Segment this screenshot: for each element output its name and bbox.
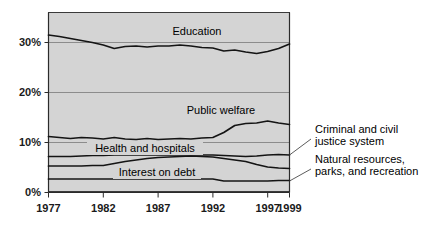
y-axis-label-20: 20%: [19, 86, 41, 98]
label-education-group: Education: [167, 24, 227, 38]
leader-line-natural-resources: [290, 169, 312, 181]
x-axis-label-1982: 1982: [91, 202, 115, 214]
x-axis-label-1977: 1977: [36, 202, 60, 214]
callout-criminal-justice-line-1: Criminal and civil: [315, 123, 398, 135]
series-label-education: Education: [173, 25, 222, 37]
plot-area-background: [49, 13, 290, 192]
series-label-public-welfare: Public welfare: [187, 104, 255, 116]
label-health-hospitals-group: Health and hospitals: [87, 141, 203, 155]
callout-natural-resources: Natural resources, parks, and recreation: [315, 153, 418, 177]
callout-natural-resources-line-1: Natural resources,: [315, 153, 405, 165]
y-axis-label-0: 0%: [25, 186, 41, 198]
y-axis-label-10: 10%: [19, 136, 41, 148]
label-interest-debt-group: Interest on debt: [113, 165, 201, 179]
x-axis-label-1987: 1987: [146, 202, 170, 214]
x-tick-marks: [49, 193, 290, 198]
chart-figure: 30% 20% 10% 0% 1977 1982 1987 1992 1997 …: [0, 0, 436, 226]
series-label-health-and-hospitals: Health and hospitals: [95, 142, 195, 154]
callout-leader-lines: [290, 139, 312, 181]
x-axis-label-1999: 1999: [277, 202, 301, 214]
series-label-interest-on-debt: Interest on debt: [119, 166, 195, 178]
y-axis-label-30: 30%: [19, 36, 41, 48]
leader-line-criminal-justice: [290, 139, 312, 155]
x-axis-labels: 1977 1982 1987 1992 1997 1999: [36, 202, 301, 214]
x-axis-label-1992: 1992: [201, 202, 225, 214]
callout-natural-resources-line-2: parks, and recreation: [315, 165, 418, 177]
callout-criminal-justice-line-2: justice system: [314, 135, 384, 147]
line-chart: 30% 20% 10% 0% 1977 1982 1987 1992 1997 …: [0, 0, 436, 226]
label-public-welfare-group: Public welfare: [182, 103, 260, 117]
y-axis-labels: 30% 20% 10% 0%: [19, 36, 41, 198]
callout-criminal-justice: Criminal and civil justice system: [314, 123, 398, 147]
